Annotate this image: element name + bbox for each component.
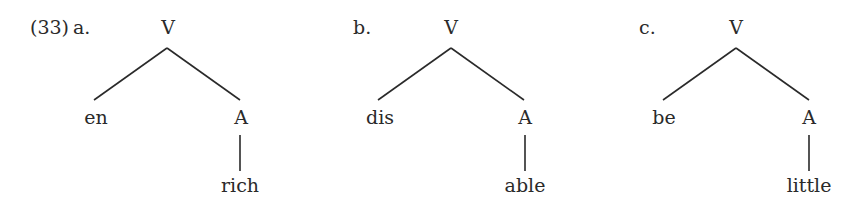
branch-right <box>736 48 809 100</box>
branch-left <box>663 48 736 100</box>
tree-branches <box>0 0 844 204</box>
branch-right <box>167 48 240 100</box>
branch-right <box>451 48 524 100</box>
branch-left <box>378 48 451 100</box>
branch-left <box>94 48 167 100</box>
